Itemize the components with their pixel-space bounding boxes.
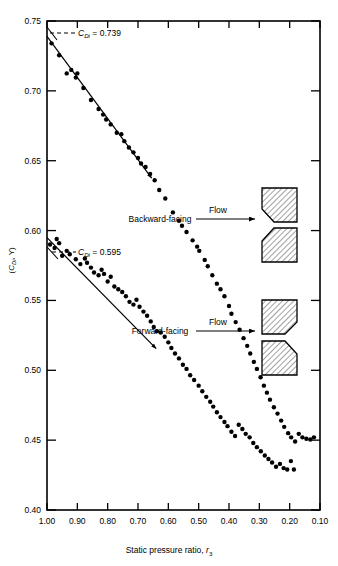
data-point (184, 230, 188, 234)
x-tick-label: 0.50 (190, 516, 207, 526)
chart-figure: 1.000.900.800.700.600.500.400.300.200.10… (0, 0, 338, 566)
data-point (206, 264, 210, 268)
y-axis-label: (CDi, Y) (7, 230, 18, 290)
data-point (292, 467, 296, 471)
x-tick-label: 0.30 (251, 516, 268, 526)
data-point (124, 294, 128, 298)
data-point (255, 367, 259, 371)
data-point (131, 150, 135, 154)
data-point (211, 404, 215, 408)
data-point (157, 188, 161, 192)
forward-facing-label: Forward-facing (132, 326, 189, 336)
x-tick-label: 0.90 (69, 516, 86, 526)
data-point (48, 242, 52, 246)
x-tick-label: 0.60 (160, 516, 177, 526)
data-point (127, 145, 131, 149)
data-point (119, 132, 123, 136)
data-point (139, 161, 143, 165)
data-point (60, 254, 64, 258)
backward-facing-label: Backward-facing (129, 214, 192, 224)
data-point (141, 309, 145, 313)
x-tick-label: 0.20 (281, 516, 298, 526)
data-point (293, 439, 297, 443)
data-point (251, 441, 255, 445)
data-point (152, 178, 156, 182)
data-point (204, 395, 208, 399)
y-tick-label: 0.45 (24, 435, 41, 445)
data-point (143, 165, 147, 169)
data-point (208, 400, 212, 404)
data-point (85, 261, 89, 265)
data-point (188, 373, 192, 377)
data-point (210, 273, 214, 277)
data-point (127, 300, 131, 304)
data-point (74, 257, 78, 261)
data-point (195, 244, 199, 248)
data-point (289, 435, 293, 439)
data-point (279, 418, 283, 422)
x-tick-label: 0.10 (312, 516, 329, 526)
data-point (57, 241, 61, 245)
data-point (196, 383, 200, 387)
data-point (49, 41, 53, 45)
x-tick-label: 1.00 (39, 516, 56, 526)
data-point (286, 431, 290, 435)
data-point (229, 430, 233, 434)
boattail-forward-upper-icon (262, 300, 297, 334)
data-point (149, 319, 153, 323)
data-point (120, 290, 124, 294)
data-point (74, 75, 78, 79)
data-point (55, 237, 59, 241)
fit-lines (47, 36, 156, 348)
y-tick-label: 0.50 (24, 365, 41, 375)
data-point (136, 156, 140, 160)
x-axis-label: Static pressure ratio, r3 (0, 545, 338, 557)
data-point (180, 223, 184, 227)
data-point (265, 390, 269, 394)
data-point (105, 279, 109, 283)
data-point (145, 314, 149, 318)
data-point (300, 435, 304, 439)
data-point (112, 284, 116, 288)
data-point (272, 405, 276, 409)
data-point (248, 351, 252, 355)
data-point (255, 445, 259, 449)
data-point (252, 360, 256, 364)
data-point (102, 272, 106, 276)
data-point (166, 340, 170, 344)
data-point (177, 356, 181, 360)
data-point (245, 344, 249, 348)
data-point (268, 397, 272, 401)
y-tick-label: 0.70 (24, 86, 41, 96)
data-point (89, 98, 93, 102)
data-point (190, 238, 194, 242)
data-point (99, 267, 103, 271)
data-point (89, 265, 93, 269)
y-tick-label: 0.55 (24, 295, 41, 305)
data-point (75, 71, 79, 75)
x-tick-label: 0.80 (99, 516, 116, 526)
data-point (237, 423, 241, 427)
flow-label-lower: Flow (209, 317, 228, 327)
data-point (78, 262, 82, 266)
data-point (116, 287, 120, 291)
data-point (222, 294, 226, 298)
data-point (96, 273, 100, 277)
data-point (233, 320, 237, 324)
data-point (274, 464, 278, 468)
backward-intercept-leader (47, 27, 76, 40)
data-point (263, 453, 267, 457)
x-axis-ticks (47, 21, 320, 510)
data-point (181, 362, 185, 366)
data-point (134, 298, 138, 302)
boattail-backward-upper-icon (262, 188, 297, 222)
y-tick-label: 0.75 (24, 16, 41, 26)
data-point (68, 252, 72, 256)
flow-label-upper: Flow (209, 205, 228, 215)
data-point (259, 449, 263, 453)
backward-intercept-label: CDi = 0.739 (78, 28, 121, 39)
data-point (109, 274, 113, 278)
data-point (52, 246, 56, 250)
plot-frame (47, 21, 320, 510)
data-point (247, 435, 251, 439)
